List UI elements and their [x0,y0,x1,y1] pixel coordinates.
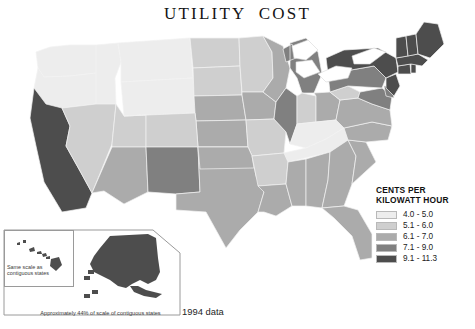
state-ND[interactable] [190,38,240,68]
legend-row-4: 9.1 - 11.3 [376,254,474,264]
hawaii-inset [4,230,74,287]
legend-row-0: 4.0 - 5.0 [376,210,474,220]
legend-swatch-0 [376,211,397,219]
map-legend: CENTS PER KILOWATT HOUR 4.0 - 5.05.1 - 6… [376,186,474,265]
legend-rows: 4.0 - 5.05.1 - 6.06.1 - 7.07.1 - 9.09.1 … [376,210,474,264]
data-year-note: 1994 data [182,306,224,317]
state-OK[interactable] [198,147,254,169]
state-LA[interactable] [258,184,292,216]
state-ID[interactable] [96,43,121,104]
legend-swatch-4 [376,255,397,263]
hawaii-caption: Same scale as contiguous states [4,264,73,277]
state-KS[interactable] [196,120,248,147]
legend-swatch-2 [376,233,397,241]
utility-cost-map-page: UTILITY COST [0,0,475,329]
state-FL[interactable] [322,206,372,260]
legend-label-4: 9.1 - 11.3 [403,254,437,263]
alaska-map [70,228,190,308]
legend-label-1: 5.1 - 6.0 [403,221,433,230]
state-NE[interactable] [194,95,246,121]
state-WY[interactable] [121,78,195,116]
legend-swatch-1 [376,222,397,230]
legend-swatch-3 [376,244,397,252]
state-SD[interactable] [193,66,242,96]
state-RI[interactable] [411,64,416,73]
state-MT[interactable] [118,38,193,82]
alaska-caption: Approximately 44% of scale of contiguous… [18,310,183,316]
legend-row-1: 5.1 - 6.0 [376,221,474,231]
legend-row-2: 6.1 - 7.0 [376,232,474,242]
legend-heading-line2: KILOWATT HOUR [376,196,474,206]
state-ME[interactable] [416,22,444,58]
alaska-inset [70,228,190,308]
legend-row-3: 7.1 - 9.0 [376,243,474,253]
legend-label-3: 7.1 - 9.0 [403,243,433,252]
state-IN[interactable] [297,93,316,124]
legend-label-0: 4.0 - 5.0 [403,210,433,219]
state-WA[interactable] [36,45,96,77]
state-AR[interactable] [252,153,288,186]
legend-label-2: 6.1 - 7.0 [403,232,433,241]
state-NM[interactable] [146,147,200,194]
hawaii-map [5,231,73,286]
alaska-shape [84,234,162,298]
